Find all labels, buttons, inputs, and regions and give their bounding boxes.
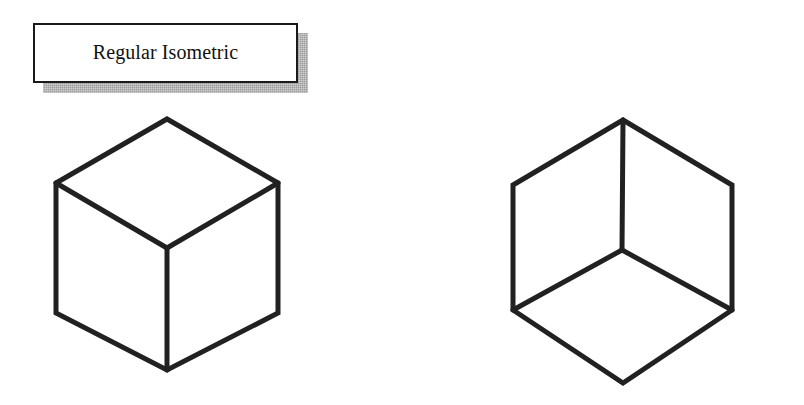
panel-reversed-isometric: Reversed Isometric	[402, 0, 804, 405]
figure-canvas: Regular Isometric Reversed Isometric	[0, 0, 804, 405]
regular-label-plate: Regular Isometric	[33, 23, 298, 83]
panel-regular-isometric: Regular Isometric	[0, 0, 402, 405]
regular-label-text: Regular Isometric	[93, 42, 239, 64]
